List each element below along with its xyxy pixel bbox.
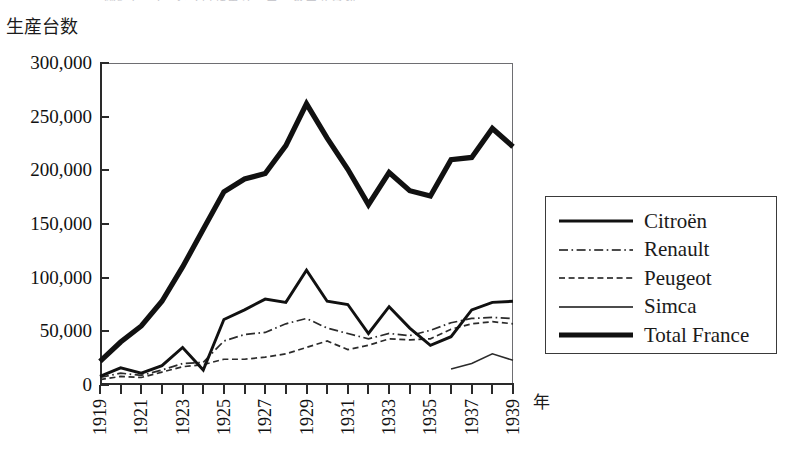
legend-item-label: Simca [644, 296, 697, 317]
chart-page: 図3-4 フランス自動車メーカーの生産台数 生産台数 050,000100,00… [0, 0, 789, 458]
x-tick-label: 1933 [380, 399, 398, 435]
x-tick-mark [512, 385, 514, 394]
series-plot-area [100, 63, 513, 385]
legend-item-peugeot[interactable]: Peugeot [558, 263, 768, 293]
x-tick-mark [347, 385, 349, 394]
x-tick-mark [306, 385, 308, 394]
legend-line-swatch [558, 243, 634, 257]
legend-item-citro-n[interactable]: Citroën [558, 206, 768, 236]
x-tick-mark [99, 385, 101, 394]
series-line-simca [451, 354, 513, 369]
x-tick-mark [140, 385, 142, 394]
x-tick-mark [161, 385, 163, 394]
x-tick-mark [367, 385, 369, 394]
y-axis-caption: 生産台数 [6, 12, 78, 38]
x-tick-label: 1937 [463, 399, 481, 435]
x-tick-mark [409, 385, 411, 394]
series-line-peugeot [100, 322, 513, 380]
legend-item-renault[interactable]: Renault [558, 235, 768, 265]
x-tick-mark [223, 385, 225, 394]
x-tick-mark [202, 385, 204, 394]
x-tick-label: 1939 [504, 399, 522, 435]
chart-legend: CitroënRenaultPeugeotSimcaTotal France [545, 196, 777, 354]
x-tick-mark [471, 385, 473, 394]
legend-item-label: Renault [644, 239, 709, 260]
legend-line-swatch [558, 300, 634, 314]
x-tick-mark [120, 385, 122, 394]
y-tick-label: 50,000 [0, 321, 92, 340]
legend-item-simca[interactable]: Simca [558, 292, 768, 322]
x-tick-label: 1919 [91, 399, 109, 435]
x-tick-label: 1929 [298, 399, 316, 435]
y-tick-label: 100,000 [0, 268, 92, 287]
legend-item-label: Total France [644, 325, 749, 346]
legend-item-label: Citroën [644, 211, 707, 232]
x-tick-label: 1923 [174, 399, 192, 435]
x-tick-label: 1921 [132, 399, 150, 435]
legend-line-swatch [558, 271, 634, 285]
x-tick-label: 1925 [215, 399, 233, 435]
x-tick-label: 1935 [421, 399, 439, 435]
y-tick-label: 250,000 [0, 107, 92, 126]
x-tick-mark [491, 385, 493, 394]
x-tick-label: 1927 [256, 399, 274, 435]
legend-line-swatch [558, 328, 634, 342]
cropped-header-text: 図3-4 フランス自動車メーカーの生産台数 [104, 0, 357, 1]
y-tick-label: 0 [0, 375, 92, 394]
legend-item-total-france[interactable]: Total France [558, 320, 768, 350]
x-tick-mark [450, 385, 452, 394]
x-tick-mark [285, 385, 287, 394]
x-tick-mark [326, 385, 328, 394]
x-tick-mark [264, 385, 266, 394]
x-tick-mark [388, 385, 390, 394]
x-axis-caption: 年 [533, 388, 550, 413]
y-tick-label: 150,000 [0, 214, 92, 233]
legend-item-label: Peugeot [644, 268, 712, 289]
x-tick-mark [182, 385, 184, 394]
x-tick-label: 1931 [339, 399, 357, 435]
y-tick-label: 200,000 [0, 160, 92, 179]
y-tick-label: 300,000 [0, 53, 92, 72]
x-tick-mark [244, 385, 246, 394]
x-tick-mark [429, 385, 431, 394]
legend-line-swatch [558, 214, 634, 228]
